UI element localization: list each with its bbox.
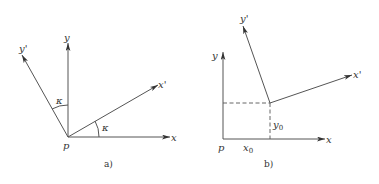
caption-b: b) (264, 159, 273, 169)
y-prime-axis-b (243, 26, 270, 103)
x-prime-label-a: x' (158, 79, 166, 90)
y-label-a: y (63, 32, 70, 43)
panel-b: y y' x' x p x0 y0 b) (211, 13, 361, 169)
x0-label: x0 (243, 142, 253, 155)
panel-a: y y' x' x p κ κ a) (18, 32, 177, 169)
caption-a: a) (104, 159, 113, 169)
x-prime-axis-b (270, 75, 352, 103)
kappa-label-1: κ (55, 95, 63, 106)
x-prime-label-b: x' (353, 69, 361, 80)
y-label-b: y (211, 50, 218, 61)
x-prime-axis-a (68, 85, 158, 137)
x-label-a: x (171, 132, 177, 143)
origin-label-a: p (63, 140, 70, 151)
y-prime-label-a: y' (18, 43, 27, 54)
x-label-b: x (326, 134, 332, 145)
origin-label-b: p (218, 142, 225, 153)
y0-label: y0 (272, 119, 283, 132)
kappa-label-2: κ (101, 122, 109, 133)
coordinate-diagram: y y' x' x p κ κ a) y y' x' x p x0 y0 b) (0, 0, 379, 184)
angle-arc-x (95, 121, 99, 137)
y-prime-label-b: y' (239, 13, 248, 24)
